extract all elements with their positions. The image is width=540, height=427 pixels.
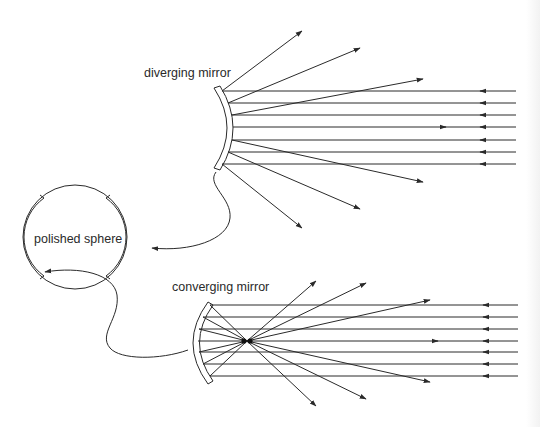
diverging-mirror <box>214 86 233 170</box>
diverging-reflected-rays <box>222 31 423 228</box>
polished-sphere-label: polished sphere <box>34 232 122 246</box>
diverging-mirror-label: diverging mirror <box>144 66 231 80</box>
converging-reflected-rays <box>199 281 430 406</box>
connector-diverging-to-sphere <box>152 172 230 249</box>
page-edge-shadow <box>526 0 540 427</box>
converging-mirror-label: converging mirror <box>172 280 269 294</box>
mirror-diagram <box>0 0 540 427</box>
converging-mirror <box>193 302 213 384</box>
connector-sphere-to-converging <box>45 270 188 357</box>
diverging-incident-rays <box>222 91 516 164</box>
